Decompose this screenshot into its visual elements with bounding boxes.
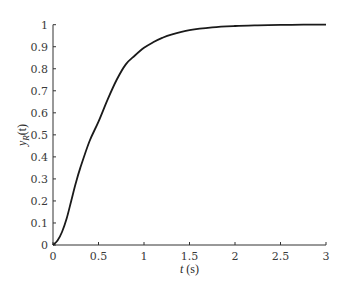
y-tick-label: 0.8 [31,63,49,76]
x-tick-label: 1 [141,250,148,263]
y-tick-label: 1 [41,19,48,32]
y-tick-label: 0.7 [31,85,49,98]
y-tick-label: 0.9 [31,41,49,54]
x-axis-label: t (s) [180,262,199,276]
y-tick-label: 0.3 [31,173,49,186]
step-response-chart: 00.10.20.30.40.50.60.70.80.91 00.511.522… [0,0,343,287]
y-tick-label: 0 [41,239,48,252]
y-tick-label: 0.6 [31,107,49,120]
y-tick-label: 0.5 [31,129,49,142]
x-tick-label: 0.5 [90,250,108,263]
x-tick-label: 0 [50,250,57,263]
x-tick-label: 2 [232,250,239,263]
axes [53,25,326,245]
y-axis-label: yR(t) [15,124,31,147]
y-ticks: 00.10.20.30.40.50.60.70.80.91 [31,19,57,252]
x-tick-label: 2.5 [272,250,290,263]
response-curve [53,25,326,245]
y-tick-label: 0.1 [31,217,49,230]
y-tick-label: 0.4 [31,151,49,164]
y-tick-label: 0.2 [31,195,49,208]
x-tick-label: 3 [323,250,330,263]
